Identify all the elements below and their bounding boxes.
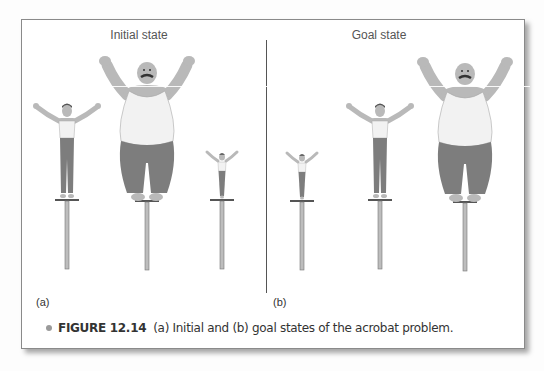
acrobat-large-a: [99, 56, 195, 201]
scan-artifact-line: [110, 86, 530, 87]
acrobat-small-a: [207, 152, 237, 199]
acrobat-large-b: [417, 57, 513, 202]
pole-b1: [290, 200, 314, 270]
acrobat-medium-a: [33, 103, 101, 198]
pole-b2: [368, 199, 392, 269]
pole-a3: [210, 199, 234, 269]
acrobat-medium-b: [346, 103, 414, 198]
pole-b3: [453, 201, 477, 271]
pole-a2: [135, 200, 159, 270]
panel-a-acrobats: [33, 56, 237, 270]
acrobat-illustration: [0, 0, 544, 371]
pole-a1: [55, 199, 79, 269]
acrobat-small-b: [287, 153, 317, 200]
panel-b-acrobats: [287, 57, 513, 271]
